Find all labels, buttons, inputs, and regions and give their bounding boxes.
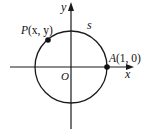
- point-a-coords: (1, 0): [116, 52, 141, 65]
- x-axis-label: x: [124, 67, 131, 81]
- point-a-label: A(1, 0): [108, 52, 141, 65]
- point-p-label: P(x, y): [20, 24, 53, 37]
- point-a-marker: [104, 64, 110, 70]
- point-p-marker: [45, 37, 51, 43]
- y-axis-label: y: [60, 0, 67, 14]
- unit-circle-diagram: y x O s P(x, y) A(1, 0): [0, 0, 144, 133]
- x-axis: [10, 64, 134, 70]
- point-p-name: P: [20, 24, 28, 36]
- arc-length-label: s: [87, 18, 92, 32]
- y-axis-arrow-icon: [68, 2, 74, 11]
- y-axis: [68, 2, 74, 129]
- point-p-coords: (x, y): [28, 24, 53, 37]
- origin-label: O: [61, 70, 69, 82]
